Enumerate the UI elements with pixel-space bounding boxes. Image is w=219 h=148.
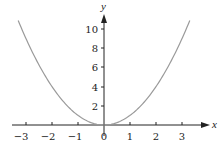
y-tick-label: 2 xyxy=(92,101,98,112)
y-tick-label: 4 xyxy=(92,82,98,93)
x-tick-label: 3 xyxy=(179,131,185,142)
x-tick-label: 0 xyxy=(101,131,107,142)
y-axis-label: y xyxy=(100,0,106,12)
x-tick-label: 1 xyxy=(127,131,133,142)
x-axis-arrow-icon xyxy=(201,122,210,128)
x-tick-labels: −3 −2 −1 0 1 2 3 xyxy=(14,131,186,142)
y-tick-labels: 2 4 6 8 10 xyxy=(85,24,98,112)
x-tick-label: −1 xyxy=(68,131,83,142)
y-tick-label: 6 xyxy=(92,62,98,73)
x-tick-label: −3 xyxy=(14,131,29,142)
x-tick-label: −2 xyxy=(41,131,56,142)
y-axis-arrow-icon xyxy=(101,14,107,23)
x-tick-label: 2 xyxy=(153,131,159,142)
y-tick-label: 8 xyxy=(92,43,98,54)
y-tick-label: 10 xyxy=(85,24,98,35)
x-axis-label: x xyxy=(211,118,217,130)
parabola-chart: −3 −2 −1 0 1 2 3 2 4 6 8 10 x y xyxy=(0,0,219,148)
